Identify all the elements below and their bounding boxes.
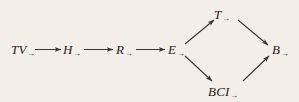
node-r-subscript: → [125, 49, 133, 58]
node-bci-base: BCI [208, 84, 230, 99]
node-b-subscript: → [281, 49, 289, 58]
node-t-subscript: → [222, 14, 230, 23]
node-b-base: B [272, 42, 280, 57]
node-tv-subscript: → [27, 49, 35, 58]
node-bci-subscript: → [230, 91, 238, 100]
node-tv-base: TV [11, 42, 27, 57]
node-b: B→ [272, 43, 289, 58]
implication-diagram: TV→ H→ R→ E→ T→ BCI→ B→ [0, 0, 299, 102]
edge-e-to-t [185, 20, 214, 44]
node-e-subscript: → [177, 49, 185, 58]
node-e-base: E [168, 42, 176, 57]
node-r: R→ [116, 43, 133, 58]
edge-e-to-bci [185, 56, 212, 81]
node-t: T→ [214, 8, 230, 23]
edge-t-to-b [238, 20, 268, 45]
node-bci: BCI→ [208, 85, 238, 100]
node-e: E→ [168, 43, 185, 58]
node-h: H→ [63, 43, 81, 58]
diagram-edges-canvas [0, 0, 299, 102]
node-t-base: T [214, 7, 221, 22]
node-tv: TV→ [11, 43, 35, 58]
node-h-base: H [63, 42, 73, 57]
edge-bci-to-b [243, 56, 269, 81]
node-r-base: R [116, 42, 124, 57]
node-h-subscript: → [73, 49, 81, 58]
